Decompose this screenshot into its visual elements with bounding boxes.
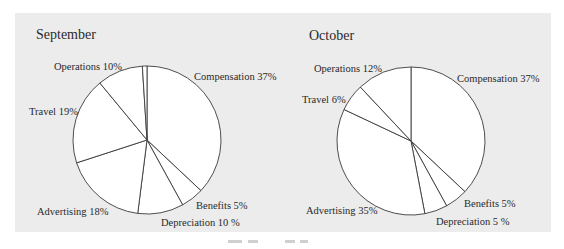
slices-october <box>337 67 485 215</box>
caption-fragment <box>300 240 308 243</box>
label-advertising-september: Advertising 18% <box>37 206 109 217</box>
caption-fragment <box>228 240 242 243</box>
chart-title-october: October <box>309 28 354 43</box>
chart-title-september: September <box>36 27 96 42</box>
label-depreciation-september: Depreciation 10 % <box>161 217 240 228</box>
label-operations-october: Operations 12% <box>314 63 382 74</box>
pie-september: September Compensation 37% Benefits 5% D… <box>29 27 277 228</box>
caption-fragment <box>248 240 258 243</box>
caption-fragment <box>285 240 295 243</box>
label-benefits-october: Benefits 5% <box>464 198 516 209</box>
label-depreciation-october: Depreciation 5 % <box>436 216 510 227</box>
label-compensation-september: Compensation 37% <box>194 71 277 82</box>
label-travel-september: Travel 19% <box>29 106 78 117</box>
label-advertising-october: Advertising 35% <box>306 205 378 216</box>
label-benefits-september: Benefits 5% <box>196 200 248 211</box>
label-travel-october: Travel 6% <box>302 94 346 105</box>
label-operations-september: Operations 10% <box>54 61 122 72</box>
pie-october: October Compensation 37% Benefits 5% Dep… <box>302 28 540 227</box>
label-compensation-october: Compensation 37% <box>457 73 540 84</box>
pie-charts: September Compensation 37% Benefits 5% D… <box>0 0 564 249</box>
slices-september <box>73 66 221 214</box>
